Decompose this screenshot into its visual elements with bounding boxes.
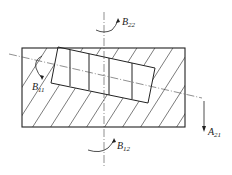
svg-text:A21: A21 <box>207 126 221 139</box>
svg-text:B12: B12 <box>117 140 131 153</box>
rotation-arrow-b12-icon <box>88 140 114 152</box>
tilted-block <box>51 47 155 103</box>
svg-text:B22: B22 <box>122 16 136 29</box>
diagram-canvas: B22 B11 B12 A21 <box>0 0 232 175</box>
rotation-arrow-b11-icon <box>36 56 42 78</box>
rotation-arrow-b22-icon <box>96 20 118 32</box>
